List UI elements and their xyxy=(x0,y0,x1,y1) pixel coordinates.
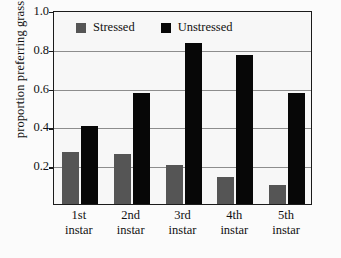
bar-group xyxy=(114,12,150,204)
x-tick-label: 1stinstar xyxy=(53,208,105,238)
gray-square-swatch xyxy=(76,23,86,33)
x-tick-label: 5thinstar xyxy=(260,208,312,238)
x-tick-label-line2: instar xyxy=(157,223,209,238)
bar-unstressed xyxy=(236,55,253,204)
legend-label: Unstressed xyxy=(178,20,233,35)
bar-stressed xyxy=(217,177,234,204)
bar-unstressed xyxy=(185,43,202,204)
black-square-swatch xyxy=(161,23,171,33)
bars-container xyxy=(54,12,311,204)
bar-stressed xyxy=(269,185,286,204)
bar-group xyxy=(166,12,202,204)
y-axis-tick-labels: 0.20.40.60.81.0 xyxy=(16,0,49,258)
bar-group xyxy=(269,12,305,204)
legend: StressedUnstressed xyxy=(76,20,233,35)
y-tick-label: 1.0 xyxy=(19,5,49,18)
x-tick-label: 4thinstar xyxy=(208,208,260,238)
bar-stressed xyxy=(62,152,79,204)
x-tick-label-line2: instar xyxy=(53,223,105,238)
y-tick-label: 0.4 xyxy=(19,121,49,134)
x-tick-label-line2: instar xyxy=(260,223,312,238)
bar-unstressed xyxy=(81,126,98,204)
plot-area: StressedUnstressed xyxy=(53,11,312,205)
bar-group xyxy=(62,12,98,204)
x-tick-label-line2: instar xyxy=(105,223,157,238)
legend-entry: Unstressed xyxy=(161,20,233,35)
legend-label: Stressed xyxy=(93,20,135,35)
y-tick-label: 0.6 xyxy=(19,83,49,96)
x-tick-label-line1: 2nd xyxy=(121,208,140,222)
x-tick-label-line1: 3rd xyxy=(174,208,191,222)
bar-stressed xyxy=(166,165,183,204)
x-tick-label-line1: 1st xyxy=(72,208,87,222)
x-tick-label-line1: 4th xyxy=(226,208,242,222)
y-tick-label: 0.8 xyxy=(19,44,49,57)
bar-chart: proportion preferring grass 0.20.40.60.8… xyxy=(0,0,341,258)
x-axis-tick-labels: 1stinstar2ndinstar3rdinstar4thinstar5thi… xyxy=(53,208,312,254)
bar-unstressed xyxy=(133,93,150,204)
bar-group xyxy=(217,12,253,204)
x-tick-label-line2: instar xyxy=(208,223,260,238)
x-tick-label-line1: 5th xyxy=(278,208,294,222)
x-tick-label: 2ndinstar xyxy=(105,208,157,238)
x-tick-label: 3rdinstar xyxy=(157,208,209,238)
legend-entry: Stressed xyxy=(76,20,135,35)
bar-unstressed xyxy=(288,93,305,204)
y-tick-label: 0.2 xyxy=(19,160,49,173)
bar-stressed xyxy=(114,154,131,204)
